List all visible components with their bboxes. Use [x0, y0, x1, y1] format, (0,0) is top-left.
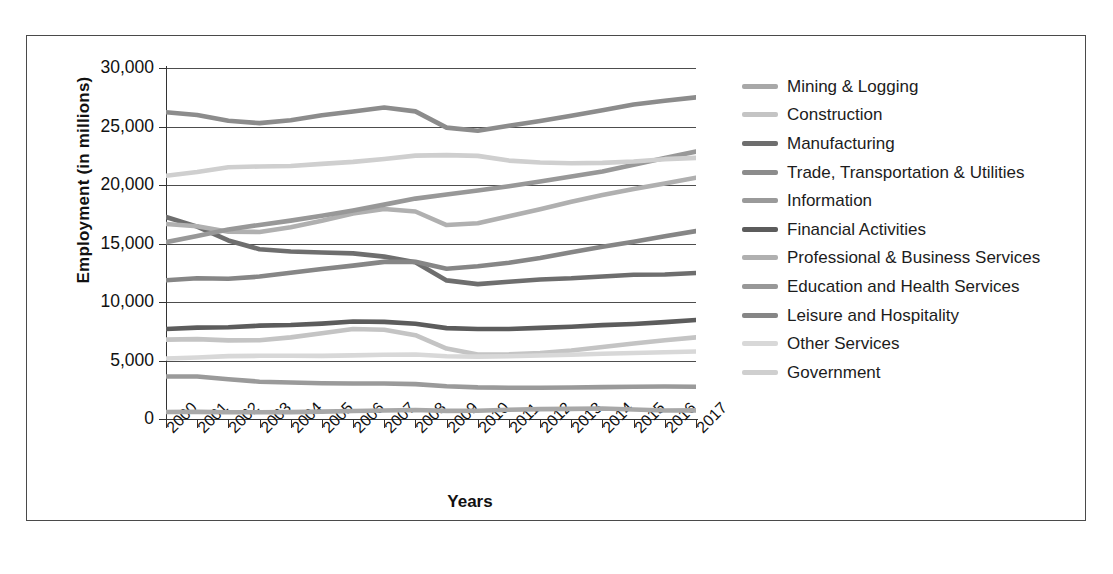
legend-item[interactable]: Other Services — [742, 329, 1092, 358]
y-tick-label: 25,000 — [34, 116, 154, 137]
legend-color-swatch — [742, 170, 778, 175]
legend-item-label: Professional & Business Services — [787, 249, 1040, 266]
y-tick-label: 30,000 — [34, 57, 154, 78]
legend-item[interactable]: Professional & Business Services — [742, 244, 1092, 273]
legend-color-swatch — [742, 313, 778, 318]
legend-item-label: Mining & Logging — [787, 78, 918, 95]
legend-item-label: Government — [787, 364, 881, 381]
legend-color-swatch — [742, 227, 778, 232]
legend-item[interactable]: Leisure and Hospitality — [742, 301, 1092, 330]
legend-item[interactable]: Manufacturing — [742, 129, 1092, 158]
series-line — [166, 408, 696, 412]
series-line — [166, 352, 696, 359]
series-line — [166, 320, 696, 329]
chart-legend: Mining & LoggingConstructionManufacturin… — [742, 72, 1092, 387]
legend-item[interactable]: Mining & Logging — [742, 72, 1092, 101]
legend-item-label: Other Services — [787, 335, 899, 352]
legend-item-label: Education and Health Services — [787, 278, 1019, 295]
legend-item-label: Information — [787, 192, 872, 209]
y-tick-label: 0 — [34, 408, 154, 429]
series-line — [166, 155, 696, 176]
y-tick-label: 5,000 — [34, 350, 154, 371]
legend-color-swatch — [742, 112, 778, 117]
legend-item-label: Leisure and Hospitality — [787, 307, 959, 324]
series-line — [166, 377, 696, 388]
legend-color-swatch — [742, 255, 778, 260]
series-line — [166, 97, 696, 130]
legend-item[interactable]: Information — [742, 186, 1092, 215]
series-line — [166, 178, 696, 232]
legend-item[interactable]: Government — [742, 358, 1092, 387]
plot-area — [166, 68, 696, 419]
legend-item[interactable]: Trade, Transportation & Utilities — [742, 158, 1092, 187]
legend-item-label: Financial Activities — [787, 221, 926, 238]
legend-color-swatch — [742, 370, 778, 375]
y-tick-label: 10,000 — [34, 291, 154, 312]
legend-color-swatch — [742, 198, 778, 203]
x-axis-title: Years — [330, 492, 610, 512]
y-tick-label: 15,000 — [34, 233, 154, 254]
series-lines — [166, 68, 696, 419]
legend-item[interactable]: Financial Activities — [742, 215, 1092, 244]
legend-color-swatch — [742, 341, 778, 346]
legend-item[interactable]: Education and Health Services — [742, 272, 1092, 301]
legend-color-swatch — [742, 84, 778, 89]
y-tick-label: 20,000 — [34, 174, 154, 195]
legend-color-swatch — [742, 284, 778, 289]
legend-color-swatch — [742, 141, 778, 146]
legend-item-label: Trade, Transportation & Utilities — [787, 164, 1024, 181]
series-line — [166, 329, 696, 354]
chart-figure: Employment (in millions) Years 05,00010,… — [0, 0, 1113, 574]
legend-item-label: Manufacturing — [787, 135, 895, 152]
legend-item-label: Construction — [787, 106, 882, 123]
legend-item[interactable]: Construction — [742, 101, 1092, 130]
